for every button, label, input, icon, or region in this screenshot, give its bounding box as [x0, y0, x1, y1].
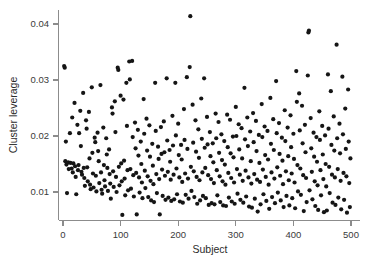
data-point — [183, 171, 187, 175]
data-point — [258, 202, 262, 206]
data-point — [209, 177, 213, 181]
data-point — [249, 159, 253, 163]
data-point — [289, 145, 293, 149]
data-point — [171, 143, 175, 147]
data-point — [346, 87, 350, 91]
data-point — [97, 159, 101, 163]
data-point — [95, 131, 99, 135]
data-point — [260, 102, 264, 106]
data-point — [84, 118, 88, 122]
data-point — [241, 179, 245, 183]
data-point — [235, 167, 239, 171]
data-point — [189, 165, 193, 169]
data-point — [290, 171, 294, 175]
data-point — [93, 136, 97, 140]
data-point — [170, 114, 174, 118]
data-point — [203, 146, 207, 150]
data-point — [180, 157, 184, 161]
data-point — [114, 175, 118, 179]
data-point — [131, 135, 135, 139]
data-point — [335, 136, 339, 140]
data-point — [301, 141, 305, 145]
data-point — [246, 144, 250, 148]
data-point — [220, 158, 224, 162]
data-point — [325, 208, 329, 212]
data-point — [182, 138, 186, 142]
data-point — [309, 116, 313, 120]
data-point — [110, 112, 114, 116]
data-point — [76, 163, 80, 167]
data-point — [316, 208, 320, 212]
data-point — [226, 171, 230, 175]
data-point — [252, 172, 256, 176]
data-point — [163, 174, 167, 178]
data-point — [317, 109, 321, 113]
data-point — [313, 179, 317, 183]
data-point — [318, 138, 322, 142]
data-point — [339, 179, 343, 183]
data-point — [310, 197, 314, 201]
data-point — [340, 75, 344, 79]
data-point — [100, 192, 104, 196]
data-point — [319, 193, 323, 197]
data-point — [146, 174, 150, 178]
data-point — [109, 197, 113, 201]
data-point — [110, 105, 114, 109]
data-point — [167, 148, 171, 152]
data-point — [227, 196, 231, 200]
data-point — [179, 143, 183, 147]
x-tick-label: 400 — [285, 229, 301, 240]
data-point — [297, 91, 301, 95]
data-point — [335, 43, 339, 47]
data-point — [232, 180, 236, 184]
data-point — [294, 69, 298, 73]
data-point — [282, 205, 286, 209]
data-point — [191, 141, 195, 145]
y-axis-title: Cluster leverage — [7, 77, 19, 154]
data-point — [224, 204, 228, 208]
data-point — [148, 155, 152, 159]
data-point — [260, 135, 264, 139]
data-point — [328, 191, 332, 195]
data-point — [208, 154, 212, 158]
data-point — [198, 198, 202, 202]
data-point — [324, 184, 328, 188]
data-point — [332, 114, 336, 118]
data-point — [243, 137, 247, 141]
data-point — [299, 193, 303, 197]
data-point — [261, 168, 265, 172]
data-point — [74, 192, 78, 196]
data-point — [326, 72, 330, 76]
data-point — [157, 177, 161, 181]
data-point — [342, 198, 346, 202]
data-point — [257, 161, 261, 165]
data-point — [122, 159, 126, 163]
data-point — [192, 169, 196, 173]
data-point — [290, 196, 294, 200]
data-point — [333, 203, 337, 207]
data-point — [309, 146, 313, 150]
data-point — [286, 126, 290, 130]
data-point — [194, 150, 198, 154]
data-point — [102, 163, 106, 167]
data-point — [277, 121, 281, 125]
data-point — [250, 206, 254, 210]
data-point — [237, 122, 241, 126]
data-point — [165, 76, 169, 80]
data-point — [268, 96, 272, 100]
data-point — [157, 157, 161, 161]
data-point — [347, 181, 351, 185]
data-point — [218, 200, 222, 204]
data-point — [63, 66, 67, 70]
data-point — [81, 91, 85, 95]
data-point — [229, 151, 233, 155]
data-point — [302, 209, 306, 213]
data-point — [339, 207, 343, 211]
data-point — [101, 126, 105, 130]
data-point — [103, 184, 107, 188]
data-point — [318, 168, 322, 172]
data-point — [175, 192, 179, 196]
data-point — [223, 183, 227, 187]
x-tick-label: 200 — [170, 229, 186, 240]
data-point — [291, 132, 295, 136]
